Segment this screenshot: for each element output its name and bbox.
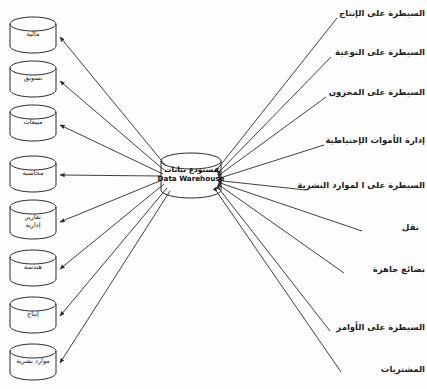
output-label-production-control: السيطرة على الإنتاج: [339, 8, 425, 18]
source-label-sales: مبيعات: [8, 119, 58, 126]
source-connectors: [60, 37, 170, 363]
source-label-marketing: تسويق: [8, 75, 58, 82]
output-label-finished-goods: بضائع جاهزة: [373, 264, 425, 274]
source-label-engineering: هندسة: [8, 264, 58, 271]
source-label-hr: موارد بشرية: [6, 358, 60, 365]
output-label-spare-parts-mgmt: إدارة الأموات الإحتياطية: [325, 135, 425, 145]
output-label-hr-control: السيطرة على ا لموارد البشرية: [297, 180, 425, 190]
output-label-purchasing: المشتريات: [381, 364, 425, 374]
source-label-accounting: محاسبة: [8, 170, 58, 177]
output-label-inventory-control: السيطرة على المخزون: [329, 87, 425, 97]
output-label-order-control: السيطرة على الأوامر: [336, 322, 425, 332]
source-label-production: إنتاج: [8, 311, 58, 318]
output-connectors: [217, 18, 362, 372]
output-label-transport: نقل: [402, 222, 419, 232]
source-label-finance: مالية: [8, 31, 58, 38]
data-warehouse-label: مستودع بيانات Data Warehouse: [146, 165, 236, 183]
source-label-admin-reports-line2: إدارية: [8, 222, 58, 229]
output-label-quality-control: السيطرة على النوعية: [335, 47, 425, 57]
data-warehouse-label-english: Data Warehouse: [146, 174, 236, 183]
data-warehouse-label-arabic: مستودع بيانات: [146, 165, 236, 174]
